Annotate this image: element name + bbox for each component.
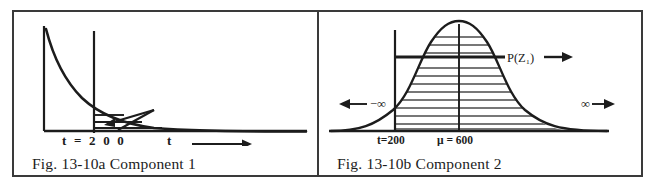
mean-label-text: μ = 600 — [437, 134, 473, 146]
figure-outer-frame: t = 2 0 0 t Fig. 13-10a Component 1 — [12, 10, 643, 177]
negative-infinity-arrow — [339, 99, 367, 109]
threshold-label-t200: t = 2 0 0 — [62, 133, 126, 146]
figure-root: t = 2 0 0 t Fig. 13-10a Component 1 — [0, 0, 657, 189]
caption-component-2: Fig. 13-10b Component 2 — [337, 155, 502, 173]
threshold-label-t200-text: t=200 — [377, 134, 405, 146]
positive-infinity-arrow — [592, 99, 615, 109]
positive-infinity-label: ∞ — [581, 97, 590, 111]
panel-component-2: P(Z₁) −∞ ∞ t=200 μ = 600 — [319, 12, 641, 175]
panel-component-1: t = 2 0 0 t Fig. 13-10a Component 1 — [14, 12, 317, 175]
axis-direction-arrow — [192, 140, 252, 147]
probability-label: P(Z₁) — [507, 51, 534, 65]
caption-component-1: Fig. 13-10a Component 1 — [32, 155, 196, 173]
chart-component-2: P(Z₁) −∞ ∞ t=200 μ = 600 — [319, 12, 641, 146]
probability-shaded-region — [395, 37, 581, 129]
x-axis-label: t — [167, 133, 172, 146]
exponential-decay-curve — [46, 29, 306, 131]
chart-component-1: t = 2 0 0 t — [14, 12, 317, 146]
negative-infinity-label: −∞ — [370, 97, 386, 111]
